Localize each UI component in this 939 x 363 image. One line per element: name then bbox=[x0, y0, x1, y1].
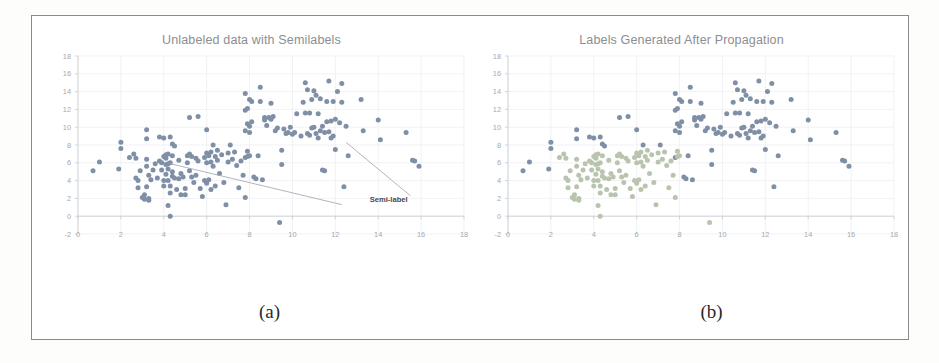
scatter-point bbox=[771, 184, 776, 189]
scatter-point bbox=[193, 173, 198, 178]
scatter-point bbox=[716, 130, 721, 135]
scatter-point bbox=[671, 173, 676, 178]
scatter-point bbox=[163, 172, 168, 177]
scatter-point bbox=[243, 91, 248, 96]
panel-a: Unlabeled data with Semilabels -20246810… bbox=[32, 16, 471, 341]
scatter-point bbox=[245, 106, 250, 111]
scatter-point bbox=[733, 110, 738, 115]
scatter-point bbox=[151, 167, 156, 172]
scatter-point bbox=[412, 159, 417, 164]
scatter-point bbox=[621, 180, 626, 185]
scatter-point bbox=[118, 140, 123, 145]
y-tick-label: 18 bbox=[63, 52, 71, 61]
scatter-point bbox=[249, 119, 254, 124]
scatter-point bbox=[733, 80, 738, 85]
scatter-point bbox=[316, 135, 321, 140]
scatter-point bbox=[638, 187, 643, 192]
scatter-point bbox=[168, 134, 173, 139]
scatter-point bbox=[281, 126, 286, 131]
x-tick-label: 14 bbox=[804, 230, 812, 239]
scatter-point bbox=[677, 124, 682, 129]
scatter-point bbox=[346, 153, 351, 158]
scatter-point bbox=[711, 126, 716, 131]
scatter-point bbox=[752, 130, 757, 135]
scatter-point bbox=[127, 155, 132, 160]
x-tick-label: 16 bbox=[417, 230, 425, 239]
scatter-point bbox=[243, 195, 248, 200]
scatter-point bbox=[613, 186, 618, 191]
scatter-point bbox=[234, 163, 239, 168]
y-tick-label: 4 bbox=[497, 176, 501, 185]
scatter-point bbox=[591, 135, 596, 140]
scatter-point bbox=[341, 184, 346, 189]
x-tick-label: 0 bbox=[506, 230, 510, 239]
scatter-point bbox=[645, 148, 650, 153]
scatter-point bbox=[324, 119, 329, 124]
scatter-point bbox=[574, 127, 579, 132]
scatter-point bbox=[228, 143, 233, 148]
scatter-point bbox=[576, 173, 581, 178]
scatter-point bbox=[136, 178, 141, 183]
scatter-point bbox=[176, 176, 181, 181]
scatter-point bbox=[144, 184, 149, 189]
scatter-point bbox=[168, 191, 173, 196]
scatter-point bbox=[136, 185, 141, 190]
scatter-point bbox=[168, 214, 173, 219]
scatter-point bbox=[303, 110, 308, 115]
scatter-point bbox=[834, 130, 839, 135]
scatter-point bbox=[376, 118, 381, 123]
scatter-point bbox=[211, 164, 216, 169]
scatter-point bbox=[320, 124, 325, 129]
scatter-point bbox=[299, 134, 304, 139]
scatter-point bbox=[561, 151, 566, 156]
scatter-point bbox=[247, 130, 252, 135]
scatter-point bbox=[679, 119, 684, 124]
scatter-point bbox=[198, 186, 203, 191]
scatter-point bbox=[118, 146, 123, 151]
scatter-point bbox=[761, 99, 766, 104]
scatter-point bbox=[638, 159, 643, 164]
scatter-point bbox=[632, 155, 637, 160]
scatter-point bbox=[331, 134, 336, 139]
scatter-point bbox=[739, 97, 744, 102]
scatter-point bbox=[741, 88, 746, 93]
scatter-point bbox=[316, 111, 321, 116]
scatter-point bbox=[767, 120, 772, 125]
scatter-point bbox=[591, 183, 596, 188]
scatter-point bbox=[303, 80, 308, 85]
scatter-point bbox=[307, 110, 312, 115]
scatter-point bbox=[521, 168, 526, 173]
scatter-point bbox=[166, 167, 171, 172]
scatter-point bbox=[178, 192, 183, 197]
scatter-point bbox=[600, 169, 605, 174]
scatter-point bbox=[187, 115, 192, 120]
scatter-point bbox=[286, 130, 291, 135]
scatter-point bbox=[643, 183, 648, 188]
scatter-point bbox=[761, 134, 766, 139]
scatter-point bbox=[705, 126, 710, 131]
scatter-point bbox=[146, 173, 151, 178]
scatter-point bbox=[666, 185, 671, 190]
scatter-point bbox=[769, 81, 774, 86]
scatter-point bbox=[636, 177, 641, 182]
x-tick-label: 2 bbox=[549, 230, 553, 239]
scatter-point bbox=[617, 115, 622, 120]
figure-root: Unlabeled data with Semilabels -20246810… bbox=[0, 0, 939, 363]
scatter-point bbox=[578, 177, 583, 182]
scatter-point bbox=[159, 167, 164, 172]
scatter-point bbox=[791, 128, 796, 133]
scatter-point bbox=[598, 160, 603, 165]
scatter-point bbox=[161, 135, 166, 140]
scatter-point bbox=[722, 130, 727, 135]
scatter-point bbox=[748, 128, 753, 133]
scatter-point bbox=[170, 153, 175, 158]
scatter-point bbox=[626, 159, 631, 164]
scatter-point bbox=[846, 164, 851, 169]
scatter-point bbox=[585, 175, 590, 180]
scatter-point bbox=[656, 159, 661, 164]
scatter-point bbox=[600, 153, 605, 158]
scatter-point bbox=[765, 89, 770, 94]
scatter-point bbox=[709, 162, 714, 167]
scatter-point bbox=[211, 143, 216, 148]
scatter-point bbox=[335, 89, 340, 94]
